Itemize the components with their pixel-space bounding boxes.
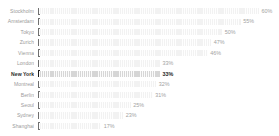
bar-track: 55% [38, 16, 275, 26]
bar-value-label: 47% [211, 37, 224, 47]
bar-fill [39, 92, 153, 98]
bar-category-label: Amsterdam [0, 16, 34, 26]
bar-fill [39, 81, 156, 87]
bar-track: 50% [38, 27, 275, 37]
bar-fill [39, 112, 123, 118]
bar-fill [39, 50, 208, 56]
bar-value-label: 23% [123, 110, 136, 120]
bar-category-label: Zurich [0, 37, 34, 47]
bar-fill [39, 71, 160, 77]
bar-track: 23% [38, 110, 275, 120]
bar-category-label: Berlin [0, 90, 34, 100]
bar-fill [39, 19, 241, 25]
bar-category-label: Tokyo [0, 27, 34, 37]
bar-chart: Stockholm60%Amsterdam55%Tokyo50%Zurich47… [0, 0, 279, 136]
bar-row: Montreal32% [0, 79, 279, 89]
bar-track: 60% [38, 6, 275, 16]
bar-row: Zurich47% [0, 37, 279, 47]
bar-value-label: 31% [153, 90, 166, 100]
bar-category-label: Sydney [0, 110, 34, 120]
bar-fill [39, 8, 259, 14]
bar-track: 46% [38, 48, 275, 58]
bar-value-label: 33% [160, 69, 173, 79]
bar-fill [39, 123, 101, 129]
bar-fill [39, 60, 160, 66]
bar-row: Stockholm60% [0, 6, 279, 16]
bar-value-label: 32% [156, 79, 169, 89]
bar-value-label: 50% [222, 27, 235, 37]
bar-row: Amsterdam55% [0, 16, 279, 26]
bar-value-label: 33% [160, 58, 173, 68]
bar-value-label: 17% [101, 121, 114, 131]
bar-category-label: Seoul [0, 100, 34, 110]
bar-row: Tokyo50% [0, 27, 279, 37]
bar-category-label: Vienna [0, 48, 34, 58]
bar-category-label: Stockholm [0, 6, 34, 16]
bar-row: Seoul25% [0, 100, 279, 110]
bar-track: 25% [38, 100, 275, 110]
bar-category-label: Montreal [0, 79, 34, 89]
bar-track: 17% [38, 121, 275, 131]
bar-track: 47% [38, 37, 275, 47]
bar-category-label: London [0, 58, 34, 68]
bar-value-label: 46% [208, 48, 221, 58]
bar-fill [39, 102, 131, 108]
bar-row: London33% [0, 58, 279, 68]
bar-track: 33% [38, 69, 275, 79]
chart-title [38, 0, 270, 2]
bar-row: Shanghai17% [0, 121, 279, 131]
bar-track: 32% [38, 79, 275, 89]
bar-category-label: Shanghai [0, 121, 34, 131]
bar-category-label: New York [0, 69, 34, 79]
bar-value-label: 60% [259, 6, 272, 16]
bar-row: New York33% [0, 69, 279, 79]
bar-row: Berlin31% [0, 90, 279, 100]
chart-rows: Stockholm60%Amsterdam55%Tokyo50%Zurich47… [0, 6, 279, 131]
bar-value-label: 55% [241, 16, 254, 26]
bar-track: 33% [38, 58, 275, 68]
bar-value-label: 25% [131, 100, 144, 110]
bar-track: 31% [38, 90, 275, 100]
bar-fill [39, 29, 222, 35]
bar-fill [39, 39, 211, 45]
bar-row: Vienna46% [0, 48, 279, 58]
bar-row: Sydney23% [0, 110, 279, 120]
